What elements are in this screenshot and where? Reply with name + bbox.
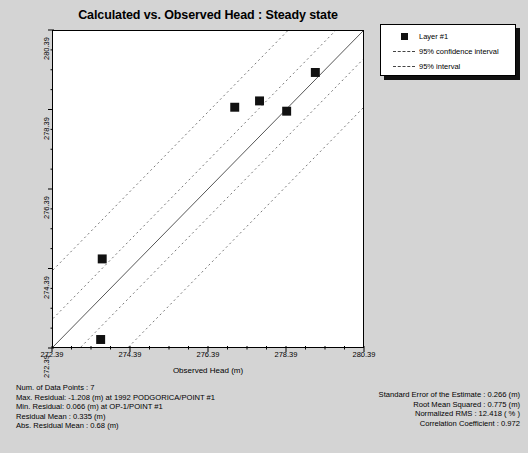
stat-min-residual: Min. Residual: 0.066 (m) at OP-1/POINT #… xyxy=(16,402,215,412)
data-point-marker[interactable] xyxy=(255,96,264,105)
data-point-marker[interactable] xyxy=(282,107,291,116)
legend-item-label: Layer #1 xyxy=(419,32,448,41)
statistics-right-column: Standard Error of the Estimate : 0.266 (… xyxy=(379,390,520,428)
x-axis-title: Observed Head (m) xyxy=(52,366,364,375)
chart-page: Calculated vs. Observed Head : Steady st… xyxy=(0,0,528,453)
y-axis-tick-label: 276.39 xyxy=(42,188,51,228)
plot-graphics xyxy=(53,31,363,347)
interval-line xyxy=(53,31,287,270)
interval-line xyxy=(53,31,335,319)
stat-normalized-rms: Normalized RMS : 12.418 ( % ) xyxy=(379,409,520,419)
interval-line xyxy=(81,59,363,347)
legend-square-icon xyxy=(401,33,408,40)
interval-line xyxy=(129,108,363,347)
legend-dashed-line-icon xyxy=(389,51,419,52)
legend-dashed-line-icon xyxy=(393,51,415,52)
data-point-marker[interactable] xyxy=(230,103,239,112)
stat-max-residual: Max. Residual: -1.208 (m) at 1992 PODGOR… xyxy=(16,393,215,403)
fit-line xyxy=(53,31,363,347)
x-axis-tick-label: 272.39 xyxy=(41,350,64,359)
stat-correlation-coefficient: Correlation Coefficient : 0.972 xyxy=(379,419,520,429)
statistics-left-column: Num. of Data Points : 7 Max. Residual: -… xyxy=(16,383,215,431)
legend-item[interactable]: Layer #1 xyxy=(381,29,515,44)
legend-item[interactable]: 95% confidence interval xyxy=(381,44,515,59)
data-point-marker[interactable] xyxy=(96,335,105,344)
x-axis-tick-label: 278.39 xyxy=(275,350,298,359)
legend-item-label: 95% confidence interval xyxy=(419,47,499,56)
data-point-marker[interactable] xyxy=(311,68,320,77)
x-axis-tick-label: 274.39 xyxy=(119,350,142,359)
legend-dashed-line-icon xyxy=(393,66,415,67)
stat-root-mean-squared: Root Mean Squared : 0.775 (m) xyxy=(379,400,520,410)
y-axis: 272.39274.39276.39278.39280.39 xyxy=(30,22,54,356)
x-axis-tick-label: 276.39 xyxy=(197,350,220,359)
legend-dashed-line-icon xyxy=(389,66,419,67)
y-axis-tick-label: 274.39 xyxy=(42,267,51,307)
stat-residual-mean: Residual Mean : 0.335 (m) xyxy=(16,412,215,422)
legend-item[interactable]: 95% interval xyxy=(381,59,515,74)
legend-square-icon xyxy=(389,33,419,40)
stat-abs-residual-mean: Abs. Residual Mean : 0.68 (m) xyxy=(16,421,215,431)
y-axis-tick-label: 278.39 xyxy=(42,108,51,148)
data-point-marker[interactable] xyxy=(98,254,107,263)
x-axis-tick-label: 280.39 xyxy=(353,350,376,359)
chart-title: Calculated vs. Observed Head : Steady st… xyxy=(52,8,364,22)
stat-num-data-points: Num. of Data Points : 7 xyxy=(16,383,215,393)
stat-standard-error: Standard Error of the Estimate : 0.266 (… xyxy=(379,390,520,400)
y-axis-tick-label: 280.39 xyxy=(42,29,51,69)
legend[interactable]: Layer #195% confidence interval95% inter… xyxy=(380,24,516,76)
plot-area[interactable] xyxy=(52,30,364,348)
legend-item-label: 95% interval xyxy=(419,62,460,71)
